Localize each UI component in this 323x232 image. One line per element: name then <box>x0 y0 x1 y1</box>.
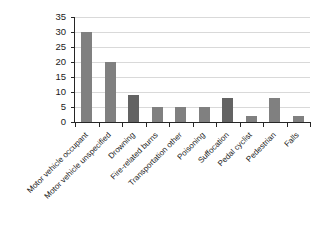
x-axis-category-label: Transportation other <box>37 131 184 232</box>
x-axis-tick <box>99 123 100 127</box>
bar <box>105 62 116 122</box>
y-axis-tick <box>71 17 75 18</box>
bar <box>152 107 163 122</box>
bar <box>222 98 233 122</box>
x-axis-tick <box>193 123 194 127</box>
y-axis-tick-label: 20 <box>43 57 66 67</box>
x-axis-tick <box>263 123 264 127</box>
x-axis-tick <box>287 123 288 127</box>
y-axis-tick-label: 10 <box>43 87 66 97</box>
x-axis-category-label: Motor vehicle unspecified <box>0 131 113 232</box>
x-axis-category-label: Falls <box>154 131 301 232</box>
y-axis-tick <box>71 32 75 33</box>
y-axis-tick-label: 5 <box>43 102 66 112</box>
y-axis-tick <box>71 62 75 63</box>
y-axis-tick-label: 15 <box>43 72 66 82</box>
bar <box>199 107 210 122</box>
x-axis-tick <box>240 123 241 127</box>
x-axis-tick <box>146 123 147 127</box>
bar-series <box>75 17 310 122</box>
y-axis-tick-label: 25 <box>43 42 66 52</box>
x-axis-tick <box>169 123 170 127</box>
bar <box>246 116 257 122</box>
chart-plot-area: 05101520253035 Motor vehicle occupantMot… <box>0 0 323 232</box>
y-axis-tick <box>71 107 75 108</box>
x-axis-category-label: Pedestrian <box>131 131 278 232</box>
y-axis-tick <box>71 77 75 78</box>
x-axis-category-label: Suffocation <box>84 131 231 232</box>
x-axis-category-label: Drowning <box>0 131 137 232</box>
y-axis-tick <box>71 92 75 93</box>
bar <box>128 95 139 122</box>
bar <box>81 32 92 122</box>
bar <box>175 107 186 122</box>
bar <box>293 116 304 122</box>
x-axis-category-label: Motor vehicle occupant <box>0 131 90 232</box>
figure-bar-chart: 05101520253035 Motor vehicle occupantMot… <box>0 0 323 232</box>
x-axis-category-label: Pedal cyclist <box>107 131 254 232</box>
plot-inner <box>75 17 310 122</box>
y-axis-tick-label: 35 <box>43 12 66 22</box>
y-axis-tick-label: 0 <box>43 117 66 127</box>
x-axis-tick <box>122 123 123 127</box>
x-axis-category-label: Poisoning <box>60 131 207 232</box>
y-axis-tick <box>71 47 75 48</box>
bar <box>269 98 280 122</box>
x-axis-tick <box>310 123 311 127</box>
x-axis-tick <box>216 123 217 127</box>
x-axis-category-label: Fire-related burns <box>13 131 160 232</box>
x-axis-tick <box>75 123 76 127</box>
y-axis-tick-label: 30 <box>43 27 66 37</box>
